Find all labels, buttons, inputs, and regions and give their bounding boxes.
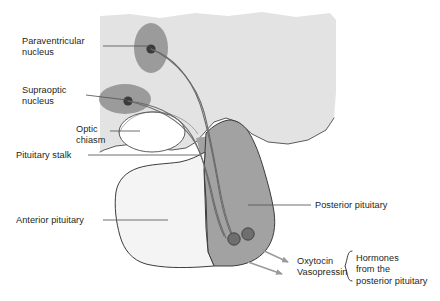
- label-hormones-list: Oxytocin Vasopressin: [297, 256, 347, 279]
- label-optic-chiasm: Optic chiasm: [76, 124, 105, 147]
- posterior-pituitary: [204, 120, 275, 266]
- label-anterior-pituitary: Anterior pituitary: [16, 215, 84, 226]
- label-posterior-pituitary: Posterior pituitary: [315, 200, 387, 211]
- label-paraventricular-nucleus: Paraventricular nucleus: [22, 36, 85, 59]
- supraoptic-nucleus: [99, 84, 151, 114]
- anatomical-diagram: Paraventricular nucleus Supraoptic nucle…: [0, 0, 440, 301]
- label-supraoptic-nucleus: Supraoptic nucleus: [22, 85, 66, 108]
- anterior-pituitary: [115, 152, 214, 268]
- label-hormones-source-note: Hormones from the posterior pituitary: [356, 253, 427, 287]
- paraventricular-nucleus: [134, 23, 168, 73]
- label-pituitary-stalk: Pituitary stalk: [16, 150, 71, 161]
